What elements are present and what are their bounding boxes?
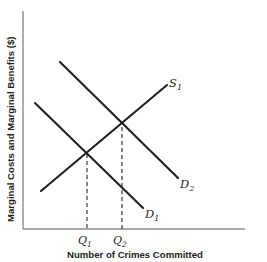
chart-canvas: S1 D1 D2 Q1 Q2 Number of Crimes Committe… — [0, 0, 267, 262]
x-tick-label-q2: Q2 — [113, 234, 127, 249]
x-tick-label-q1: Q1 — [78, 234, 92, 249]
x-axis-title: Number of Crimes Committed — [67, 249, 203, 260]
supply-curve-s1 — [41, 85, 167, 191]
curves-group — [35, 62, 178, 208]
supply-curve-label-s1: S1 — [169, 76, 182, 92]
axes-group — [23, 11, 245, 229]
x-tick-labels-group: Q1 Q2 — [78, 234, 127, 249]
economics-supply-demand-figure: S1 D1 D2 Q1 Q2 Number of Crimes Committe… — [0, 0, 267, 262]
demand-curve-label-d1: D1 — [144, 207, 159, 223]
droplines-group — [87, 127, 122, 229]
y-axis-title: Marginal Costs and Marginal Benefits ($) — [5, 36, 16, 222]
demand-curve-label-d2: D2 — [179, 177, 194, 193]
